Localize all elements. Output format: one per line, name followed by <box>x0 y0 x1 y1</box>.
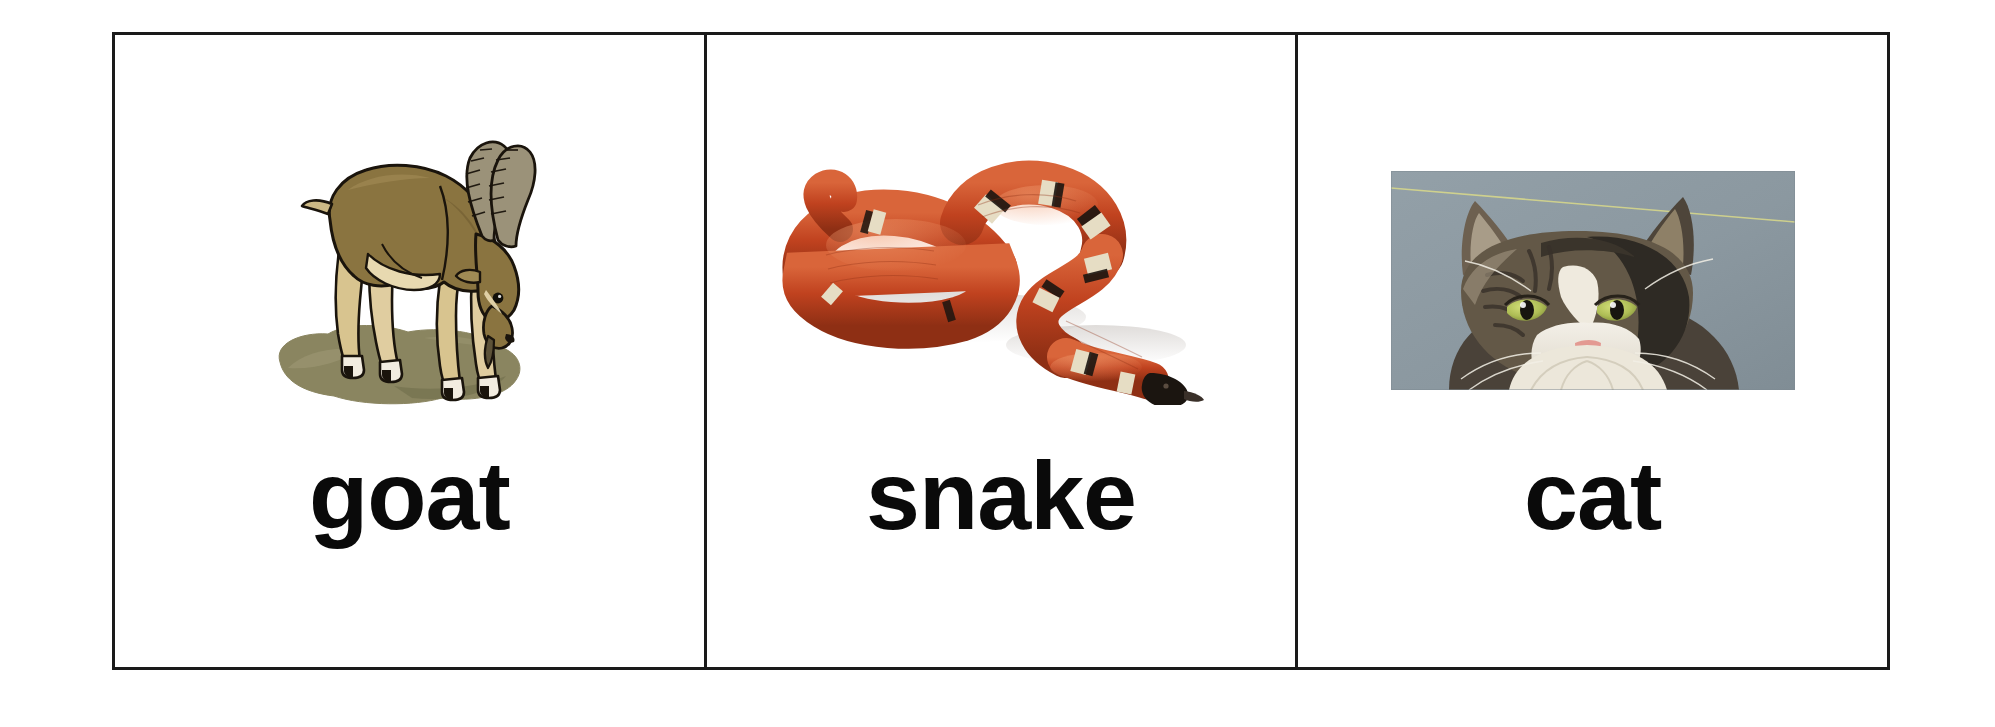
flashcard-goat[interactable]: goat <box>115 35 704 667</box>
flashcard-cat[interactable]: cat <box>1295 35 1887 667</box>
flashcard-snake[interactable]: snake <box>704 35 1296 667</box>
snake-photo <box>766 105 1236 405</box>
flashcard-sheet: goat <box>0 0 1995 727</box>
cat-photo <box>1391 171 1795 390</box>
flashcard-snake-art-area <box>707 35 1296 465</box>
goat-illustration <box>244 94 574 424</box>
flashcard-goat-art-area <box>115 35 704 465</box>
flashcard-grid: goat <box>112 32 1890 670</box>
flashcard-cat-art-area <box>1298 35 1887 465</box>
